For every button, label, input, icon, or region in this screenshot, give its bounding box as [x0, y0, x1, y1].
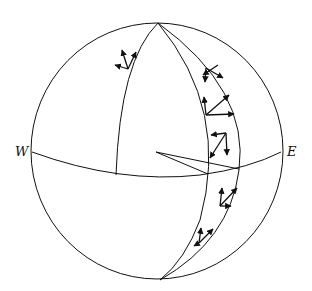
equator	[32, 152, 281, 177]
west-label: W	[15, 144, 28, 159]
sphere-outline	[31, 23, 283, 279]
vector-triad-6	[194, 228, 213, 246]
sphere-diagram	[0, 0, 312, 291]
vector-triad-5	[220, 188, 237, 206]
east-label: E	[287, 144, 297, 159]
vector-triad-4	[210, 133, 227, 158]
radius-line-1	[156, 152, 208, 174]
meridian-left	[116, 23, 158, 175]
